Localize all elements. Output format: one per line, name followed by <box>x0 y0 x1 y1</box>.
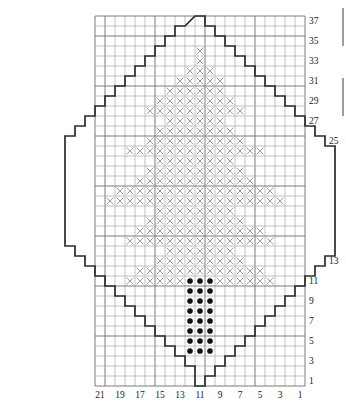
x-stitch-cell <box>177 148 184 155</box>
x-stitch-cell <box>207 268 214 275</box>
x-stitch-cell <box>147 278 154 285</box>
x-stitch-cell <box>247 278 254 285</box>
column-tick-label: 21 <box>95 390 105 400</box>
row-tick-label: 13 <box>329 256 339 266</box>
x-stitch-cell <box>267 198 274 205</box>
row-tick-label: 9 <box>309 296 314 306</box>
x-stitch-cell <box>187 88 194 95</box>
x-stitch-cell <box>237 198 244 205</box>
x-stitch-cell <box>197 148 204 155</box>
row-tick-label: 5 <box>309 336 314 346</box>
x-stitch-cell <box>137 178 144 185</box>
x-stitch-cell <box>157 148 164 155</box>
x-stitch-cell <box>127 198 134 205</box>
x-stitch-cell <box>187 218 194 225</box>
x-stitch-cell <box>177 88 184 95</box>
x-stitch-cell <box>197 168 204 175</box>
x-stitch-cell <box>197 218 204 225</box>
x-stitch-cell <box>147 218 154 225</box>
x-stitch-cell <box>207 108 214 115</box>
x-stitch-cell <box>227 218 234 225</box>
x-stitch-cell <box>227 148 234 155</box>
x-stitch-cell <box>217 248 224 255</box>
x-stitch-cell <box>157 268 164 275</box>
x-stitch-cell <box>237 178 244 185</box>
x-stitch-cell <box>197 198 204 205</box>
x-stitch-cell <box>217 88 224 95</box>
x-stitch-cell <box>197 108 204 115</box>
x-stitch-cell <box>237 278 244 285</box>
x-stitch-cell <box>197 78 204 85</box>
dot-stitch-cell <box>197 338 202 343</box>
x-stitch-cell <box>137 148 144 155</box>
x-stitch-cell <box>157 258 164 265</box>
column-tick-label: 15 <box>155 390 165 400</box>
x-stitch-cell <box>137 278 144 285</box>
x-stitch-cell <box>207 228 214 235</box>
x-stitch-cell <box>177 188 184 195</box>
x-stitch-cell <box>157 238 164 245</box>
x-stitch-cell <box>167 198 174 205</box>
x-stitch-cell <box>137 228 144 235</box>
x-stitch-cell <box>177 108 184 115</box>
x-stitch-cell <box>167 248 174 255</box>
x-stitch-cell <box>167 208 174 215</box>
x-stitch-cell <box>257 268 264 275</box>
dot-stitch-cell <box>187 288 192 293</box>
x-stitch-cell <box>197 188 204 195</box>
x-stitch-cell <box>217 268 224 275</box>
x-stitch-cell <box>187 158 194 165</box>
x-stitch-cell <box>177 98 184 105</box>
row-tick-label: 3 <box>309 356 314 366</box>
x-stitch-cell <box>167 128 174 135</box>
x-stitch-cell <box>107 198 114 205</box>
x-stitch-cell <box>257 278 264 285</box>
x-stitch-cell <box>277 198 284 205</box>
x-stitch-cell <box>197 128 204 135</box>
column-tick-label: 17 <box>135 390 145 400</box>
x-stitch-cell <box>197 268 204 275</box>
x-stitch-cell <box>217 238 224 245</box>
x-stitch-cell <box>147 168 154 175</box>
x-stitch-cell <box>217 228 224 235</box>
dot-stitch-cell <box>207 328 212 333</box>
x-stitch-cell <box>207 128 214 135</box>
x-stitch-cell <box>147 188 154 195</box>
x-stitch-cell <box>167 108 174 115</box>
x-stitch-cell <box>207 68 214 75</box>
x-stitch-cell <box>267 188 274 195</box>
x-stitch-cell <box>247 238 254 245</box>
x-stitch-cell <box>177 258 184 265</box>
x-stitch-cell <box>247 188 254 195</box>
x-stitch-cell <box>207 98 214 105</box>
dot-stitch-cell <box>187 278 192 283</box>
x-stitch-cell <box>187 268 194 275</box>
x-stitch-cell <box>257 228 264 235</box>
x-stitch-cell <box>237 108 244 115</box>
x-stitch-cell <box>247 268 254 275</box>
x-stitch-cell <box>257 238 264 245</box>
x-stitch-cell <box>187 68 194 75</box>
x-stitch-cell <box>167 118 174 125</box>
x-stitch-cell <box>147 228 154 235</box>
x-stitch-cell <box>217 98 224 105</box>
x-stitch-cell <box>207 248 214 255</box>
x-stitch-cell <box>147 148 154 155</box>
x-stitch-cell <box>187 248 194 255</box>
dot-stitch-cell <box>187 308 192 313</box>
row-tick-label: 31 <box>309 76 319 86</box>
x-stitch-cell <box>177 128 184 135</box>
x-stitch-cell <box>157 278 164 285</box>
x-stitch-cell <box>137 268 144 275</box>
x-stitch-cell <box>207 238 214 245</box>
x-stitch-cell <box>257 188 264 195</box>
x-stitch-cell <box>117 198 124 205</box>
x-stitch-cell <box>207 158 214 165</box>
x-stitch-cell <box>197 178 204 185</box>
x-stitch-cell <box>127 278 134 285</box>
x-stitch-cell <box>237 228 244 235</box>
x-stitch-cell <box>227 138 234 145</box>
row-tick-label: 7 <box>309 316 314 326</box>
x-stitch-cell <box>187 188 194 195</box>
x-stitch-cell <box>217 138 224 145</box>
